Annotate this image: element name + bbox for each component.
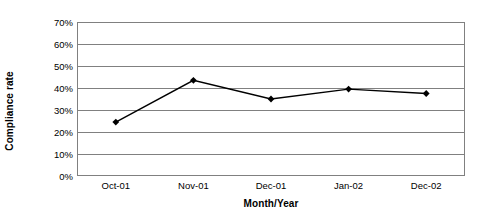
compliance-rate-line-chart: Compliance rate 70%60%50%40%30%20%10%0% … bbox=[0, 0, 484, 222]
x-axis-tick-label: Jan-02 bbox=[310, 180, 388, 196]
y-axis-tick-labels: 70%60%50%40%30%20%10%0% bbox=[35, 22, 73, 176]
y-axis-title: Compliance rate bbox=[0, 0, 18, 222]
y-axis-tick-label: 30% bbox=[37, 105, 73, 116]
data-point-marker bbox=[190, 77, 197, 84]
data-point-marker bbox=[112, 119, 119, 126]
data-point-marker bbox=[423, 90, 430, 97]
x-axis-tick-labels: Oct-01Nov-01Dec-01Jan-02Dec-02 bbox=[77, 180, 465, 196]
x-axis-tick-label: Dec-02 bbox=[387, 180, 465, 196]
x-axis-tick-label: Dec-01 bbox=[232, 180, 310, 196]
y-axis-tick-label: 20% bbox=[37, 127, 73, 138]
data-series-layer bbox=[77, 22, 465, 176]
x-axis-tick-label: Oct-01 bbox=[77, 180, 155, 196]
y-axis-tick-label: 40% bbox=[37, 83, 73, 94]
y-axis-tick-label: 60% bbox=[37, 39, 73, 50]
data-point-marker bbox=[268, 96, 275, 103]
y-axis-tick-label: 70% bbox=[37, 17, 73, 28]
y-axis-tick-label: 10% bbox=[37, 149, 73, 160]
data-point-marker bbox=[345, 86, 352, 93]
y-axis-tick-label: 0% bbox=[37, 171, 73, 182]
x-axis-title: Month/Year bbox=[77, 198, 465, 209]
y-axis-tick-label: 50% bbox=[37, 61, 73, 72]
series-markers-compliance-rate bbox=[112, 77, 429, 126]
x-axis-tick-label: Nov-01 bbox=[155, 180, 233, 196]
